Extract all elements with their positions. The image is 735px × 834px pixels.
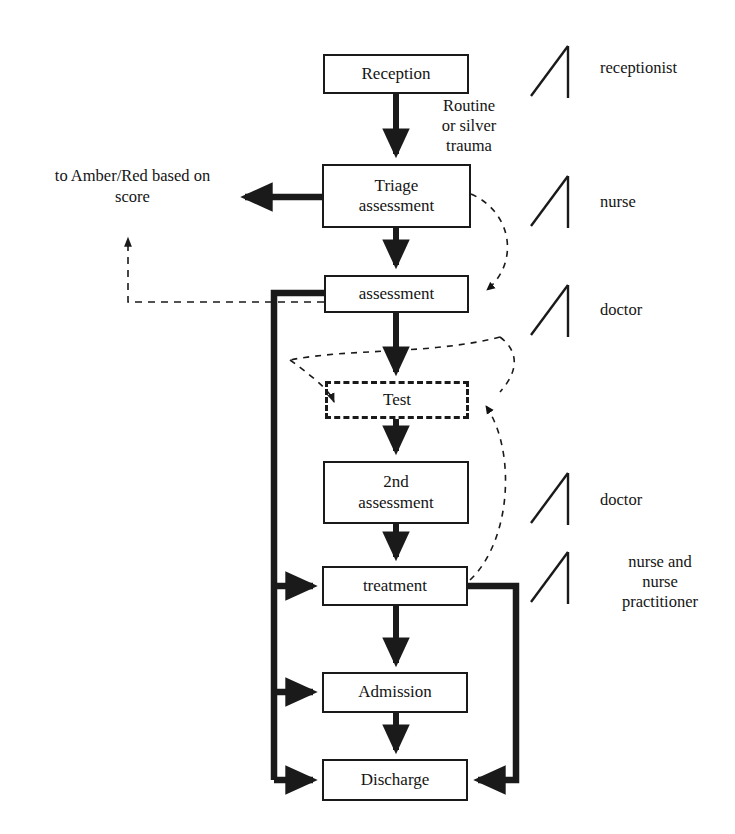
node-treatment-label: treatment bbox=[359, 576, 431, 596]
edge-treatment-to-test-dashed bbox=[470, 406, 506, 580]
node-assessment-label: assessment bbox=[355, 284, 439, 304]
diagram-canvas: Reception Triage assessment assessment T… bbox=[0, 0, 735, 834]
node-treatment[interactable]: treatment bbox=[322, 566, 468, 606]
node-triage-assessment[interactable]: Triage assessment bbox=[322, 164, 471, 228]
node-second-assessment[interactable]: 2nd assessment bbox=[323, 461, 469, 524]
node-discharge[interactable]: Discharge bbox=[322, 759, 468, 801]
node-reception[interactable]: Reception bbox=[323, 54, 469, 94]
node-test[interactable]: Test bbox=[325, 381, 469, 419]
role-label-nurse: nurse bbox=[600, 192, 730, 212]
role-label-nurse-and-nurse-practitioner: nurse and nurse practitioner bbox=[590, 552, 730, 612]
node-second-assessment-label: 2nd assessment bbox=[354, 472, 438, 512]
node-discharge-label: Discharge bbox=[357, 770, 434, 790]
role-marker-doctor-1-icon bbox=[531, 285, 568, 337]
role-marker-receptionist-icon bbox=[531, 46, 568, 98]
role-label-receptionist: receptionist bbox=[600, 58, 730, 78]
edge-treatment-to-discharge bbox=[468, 586, 516, 780]
role-marker-doctor-2-icon bbox=[531, 473, 568, 525]
role-label-doctor-1: doctor bbox=[600, 300, 730, 320]
node-test-label: Test bbox=[379, 390, 415, 410]
edge-triage-to-assessment-dashed bbox=[471, 194, 507, 290]
edge-label-routine-or-silver-trauma: Routine or silver trauma bbox=[414, 96, 524, 156]
note-to-amber-red: to Amber/Red based on score bbox=[20, 166, 245, 207]
role-marker-nurse-practitioner-icon bbox=[531, 552, 568, 604]
edge-left-return-bus bbox=[274, 293, 324, 780]
node-admission[interactable]: Admission bbox=[322, 672, 468, 713]
role-label-doctor-2: doctor bbox=[600, 490, 730, 510]
role-marker-nurse-icon bbox=[531, 176, 568, 228]
node-assessment[interactable]: assessment bbox=[324, 275, 469, 313]
node-triage-assessment-label: Triage assessment bbox=[355, 176, 439, 216]
node-reception-label: Reception bbox=[358, 64, 435, 84]
node-admission-label: Admission bbox=[354, 682, 436, 702]
